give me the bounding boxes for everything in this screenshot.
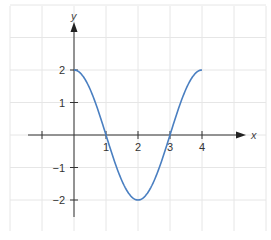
y-axis-label: y	[70, 10, 78, 22]
axes	[28, 22, 246, 217]
x-tick-label: 4	[199, 141, 205, 153]
y-tick-label: −2	[52, 194, 65, 206]
grid-lines	[10, 5, 266, 231]
y-axis-arrow-icon	[71, 22, 78, 32]
x-axis-arrow-icon	[236, 132, 246, 139]
function-plot: 123421−1−2 x y	[0, 0, 271, 240]
x-tick-label: 2	[135, 141, 141, 153]
y-tick-label: 1	[59, 97, 65, 109]
x-axis-label: x	[250, 129, 257, 141]
y-tick-label: −1	[52, 162, 65, 174]
y-tick-label: 2	[59, 64, 65, 76]
